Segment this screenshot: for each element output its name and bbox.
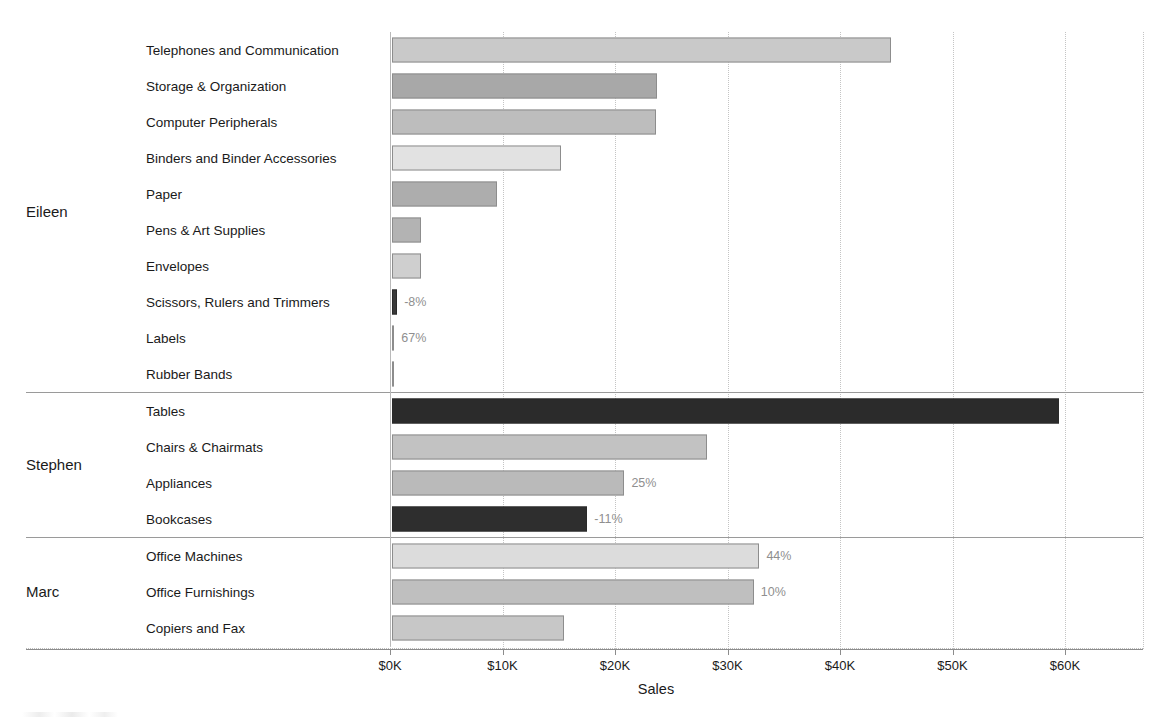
category-label[interactable]: Copiers and Fax: [146, 610, 390, 646]
category-label[interactable]: Labels: [146, 320, 390, 356]
category-label[interactable]: Scissors, Rulers and Trimmers: [146, 284, 390, 320]
table-row[interactable]: Computer Peripherals: [26, 104, 1143, 140]
bar[interactable]: [392, 74, 658, 99]
bar[interactable]: [392, 326, 395, 351]
bar[interactable]: [392, 146, 562, 171]
bar[interactable]: [392, 182, 498, 207]
plot-right-border: [1143, 32, 1144, 649]
category-label[interactable]: Binders and Binder Accessories: [146, 140, 390, 176]
table-row[interactable]: StephenTables: [26, 393, 1143, 430]
bar[interactable]: [392, 544, 760, 569]
bar-cell: [390, 429, 1143, 465]
category-label[interactable]: Appliances: [146, 465, 390, 501]
table-row[interactable]: Pens & Art Supplies: [26, 212, 1143, 248]
axis-tick: [840, 649, 841, 655]
category-label[interactable]: Chairs & Chairmats: [146, 429, 390, 465]
bar-cell: 67%: [390, 320, 1143, 356]
table-row[interactable]: Envelopes: [26, 248, 1143, 284]
axis-tick-label: $40K: [825, 658, 855, 673]
axis-tick-label: $10K: [487, 658, 517, 673]
bar[interactable]: [392, 435, 707, 460]
category-label[interactable]: Pens & Art Supplies: [146, 212, 390, 248]
table-row[interactable]: Paper: [26, 176, 1143, 212]
bar-cell: 25%: [390, 465, 1143, 501]
axis-tick: [1065, 649, 1066, 655]
bar-cell: -11%: [390, 501, 1143, 538]
table-row[interactable]: Chairs & Chairmats: [26, 429, 1143, 465]
table-row[interactable]: Copiers and Fax: [26, 610, 1143, 646]
table-row[interactable]: Appliances25%: [26, 465, 1143, 501]
bar-cell: [390, 176, 1143, 212]
axis-tick: [390, 649, 391, 655]
bar[interactable]: [392, 218, 421, 243]
axis-title: Sales: [26, 681, 1143, 697]
axis-tick: [503, 649, 504, 655]
axis-tick-label: $50K: [937, 658, 967, 673]
axis-tick-label: $30K: [712, 658, 742, 673]
axis-line: [26, 649, 1143, 650]
bar[interactable]: [392, 507, 588, 532]
bar[interactable]: [392, 471, 625, 496]
axis-tick-label: $0K: [378, 658, 401, 673]
bar[interactable]: [392, 254, 421, 279]
bar[interactable]: [392, 616, 564, 641]
bar-cell: [390, 104, 1143, 140]
category-label[interactable]: Office Machines: [146, 538, 390, 575]
bar-cell: [390, 610, 1143, 646]
axis-tick: [615, 649, 616, 655]
bar-value-label: -8%: [404, 295, 426, 309]
category-label[interactable]: Storage & Organization: [146, 68, 390, 104]
bar-value-label: 44%: [766, 549, 791, 563]
pane-person-label[interactable]: Marc: [26, 538, 146, 647]
table-row[interactable]: Office Furnishings10%: [26, 574, 1143, 610]
bar[interactable]: [392, 580, 754, 605]
chart-grid-table: EileenTelephones and CommunicationStorag…: [26, 32, 1143, 646]
axis-tick: [728, 649, 729, 655]
bar-cell: [390, 68, 1143, 104]
category-label[interactable]: Rubber Bands: [146, 356, 390, 393]
bar-cell: [390, 140, 1143, 176]
bar-cell: [390, 393, 1143, 430]
x-axis: $0K$10K$20K$30K$40K$50K$60K Sales: [26, 649, 1143, 723]
table-row[interactable]: EileenTelephones and Communication: [26, 32, 1143, 68]
bar-cell: [390, 212, 1143, 248]
bar-value-label: 25%: [631, 476, 656, 490]
table-row[interactable]: Bookcases-11%: [26, 501, 1143, 538]
axis-tick: [953, 649, 954, 655]
table-row[interactable]: Labels67%: [26, 320, 1143, 356]
table-row[interactable]: Binders and Binder Accessories: [26, 140, 1143, 176]
sales-by-salesperson-bar-chart: EileenTelephones and CommunicationStorag…: [0, 0, 1169, 723]
bar-cell: 10%: [390, 574, 1143, 610]
category-label[interactable]: Tables: [146, 393, 390, 430]
axis-tick-label: $20K: [600, 658, 630, 673]
bar[interactable]: [392, 110, 656, 135]
table-row[interactable]: MarcOffice Machines44%: [26, 538, 1143, 575]
bar-cell: [390, 32, 1143, 68]
category-label[interactable]: Computer Peripherals: [146, 104, 390, 140]
scan-artifact: [22, 712, 118, 717]
bar-cell: 44%: [390, 538, 1143, 575]
bar-value-label: 10%: [761, 585, 786, 599]
pane-person-label[interactable]: Stephen: [26, 393, 146, 538]
axis-title-label: Sales: [638, 681, 674, 697]
category-label[interactable]: Paper: [146, 176, 390, 212]
table-row[interactable]: Scissors, Rulers and Trimmers-8%: [26, 284, 1143, 320]
axis-tick-label: $60K: [1050, 658, 1080, 673]
pane-person-label[interactable]: Eileen: [26, 32, 146, 393]
bar-value-label: -11%: [594, 512, 622, 526]
table-row[interactable]: Storage & Organization: [26, 68, 1143, 104]
bar[interactable]: [392, 399, 1059, 424]
bar-cell: -8%: [390, 284, 1143, 320]
bar[interactable]: [392, 362, 394, 387]
table-row[interactable]: Rubber Bands: [26, 356, 1143, 393]
bar[interactable]: [392, 38, 892, 63]
bar-cell: [390, 248, 1143, 284]
category-label[interactable]: Telephones and Communication: [146, 32, 390, 68]
category-label[interactable]: Bookcases: [146, 501, 390, 538]
bar[interactable]: [392, 290, 398, 315]
category-label[interactable]: Office Furnishings: [146, 574, 390, 610]
bar-value-label: 67%: [401, 331, 426, 345]
bar-cell: [390, 356, 1143, 393]
category-label[interactable]: Envelopes: [146, 248, 390, 284]
